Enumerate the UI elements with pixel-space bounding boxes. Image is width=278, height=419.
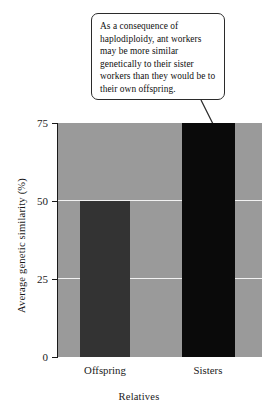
y-axis-title: Average genetic similarity (%) [16, 151, 27, 341]
y-tick-25 [52, 279, 57, 280]
bar-offspring [80, 201, 130, 357]
y-tick-0 [52, 357, 57, 358]
y-tick-label-25: 25 [8, 273, 48, 285]
annotation-callout-text: As a consequence of haplodiploidy, ant w… [100, 20, 217, 95]
x-axis-title: Relatives [0, 391, 278, 402]
y-tick-label-75: 75 [8, 117, 48, 129]
y-tick-50 [52, 201, 57, 202]
y-tick-label-50: 50 [8, 195, 48, 207]
chart-figure: As a consequence of haplodiploidy, ant w… [0, 0, 278, 419]
annotation-callout: As a consequence of haplodiploidy, ant w… [91, 13, 225, 100]
x-tick-label-offspring: Offspring [84, 364, 126, 376]
bar-sisters [182, 123, 235, 357]
y-tick-label-0: 0 [8, 351, 48, 363]
plot-area [58, 123, 262, 357]
y-axis-line [57, 123, 58, 358]
x-tick-label-sisters: Sisters [194, 364, 223, 376]
y-tick-75 [52, 123, 57, 124]
